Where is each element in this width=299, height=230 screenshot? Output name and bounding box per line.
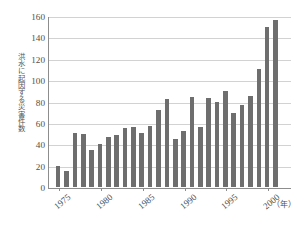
bar-slot — [196, 17, 204, 187]
bar — [206, 98, 211, 187]
bar-slot — [188, 17, 196, 187]
bar — [131, 127, 136, 187]
y-tick-label: 120 — [31, 55, 45, 65]
bar — [156, 110, 161, 187]
bar — [181, 131, 186, 187]
x-tick-mark — [59, 188, 60, 191]
bar-slot — [62, 17, 70, 187]
x-tick-label: 1980 — [94, 192, 114, 211]
bar — [173, 139, 178, 187]
bar — [139, 133, 144, 188]
bar — [73, 133, 78, 188]
bar-slot — [271, 17, 279, 187]
bar-slot — [146, 17, 154, 187]
bar — [98, 144, 103, 187]
y-tick-label: 160 — [31, 12, 45, 22]
bar — [257, 69, 262, 187]
bar — [89, 150, 94, 187]
y-tick-label: 40 — [36, 140, 45, 150]
bar — [215, 102, 220, 188]
bar — [106, 137, 111, 187]
x-tick-label: 1975 — [52, 192, 72, 211]
bar-slot — [246, 17, 254, 187]
bar-slot — [171, 17, 179, 187]
bar — [56, 166, 61, 187]
x-tick-mark — [226, 188, 227, 191]
bar — [64, 171, 69, 187]
bar — [248, 96, 253, 187]
bar-slot — [280, 17, 288, 187]
x-tick-mark — [185, 188, 186, 191]
bar-slot — [255, 17, 263, 187]
x-tick-mark — [268, 188, 269, 191]
y-tick-label: 140 — [31, 33, 45, 43]
x-tick-label: 1995 — [220, 192, 240, 211]
y-tick-label: 100 — [31, 76, 45, 86]
bar-slot — [54, 17, 62, 187]
bar-slot — [263, 17, 271, 187]
bar-slot — [96, 17, 104, 187]
bar-slot — [204, 17, 212, 187]
y-tick-label: 60 — [36, 119, 45, 129]
bar-slot — [238, 17, 246, 187]
bar — [123, 128, 128, 187]
bar-slot — [104, 17, 112, 187]
plot-area: 020406080100120140160 197519801985199019… — [48, 17, 291, 189]
bar — [240, 105, 245, 187]
y-axis-title: 洪水に起因する災害件数 — [13, 22, 27, 162]
bar — [148, 126, 153, 187]
x-axis-unit-label: （年） — [272, 198, 296, 209]
bar-slot — [179, 17, 187, 187]
bar — [190, 97, 195, 187]
bar-slot — [138, 17, 146, 187]
bar — [114, 135, 119, 187]
chart-figure: 洪水に起因する災害件数 020406080100120140160 197519… — [0, 0, 299, 230]
x-tick-mark — [101, 188, 102, 191]
bar-slot — [79, 17, 87, 187]
y-tick-label: 80 — [36, 98, 45, 108]
bar-slot — [154, 17, 162, 187]
bar — [223, 91, 228, 187]
bar — [198, 127, 203, 187]
bar — [231, 113, 236, 187]
x-tick-mark — [143, 188, 144, 191]
bar-slot — [163, 17, 171, 187]
bar — [81, 134, 86, 187]
bar — [165, 99, 170, 187]
y-tick-label: 0 — [40, 183, 45, 193]
bar-slot — [221, 17, 229, 187]
x-tick-label: 1985 — [136, 192, 156, 211]
bar-slot — [129, 17, 137, 187]
x-tick-label: 1990 — [178, 192, 198, 211]
bar — [273, 20, 278, 187]
bar-slot — [71, 17, 79, 187]
y-tick-label: 20 — [36, 162, 45, 172]
bar-slot — [121, 17, 129, 187]
bar-slot — [230, 17, 238, 187]
bar — [265, 27, 270, 187]
bar-slot — [113, 17, 121, 187]
bar-series — [50, 17, 291, 187]
bar-slot — [87, 17, 95, 187]
bar-slot — [213, 17, 221, 187]
